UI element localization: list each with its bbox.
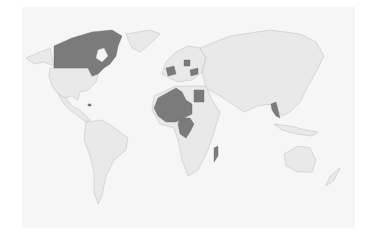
world-map <box>0 0 370 240</box>
greenland <box>126 30 160 52</box>
russia-asia <box>200 30 324 116</box>
south-america <box>84 120 128 204</box>
poland <box>184 60 190 66</box>
haiti <box>88 104 91 106</box>
egypt <box>194 90 204 102</box>
australia <box>284 146 316 172</box>
alaska <box>26 48 54 66</box>
indonesia <box>274 124 318 136</box>
mexico-central-america <box>58 94 90 122</box>
madagascar <box>214 146 218 162</box>
france <box>166 66 176 76</box>
new-zealand <box>326 168 340 186</box>
